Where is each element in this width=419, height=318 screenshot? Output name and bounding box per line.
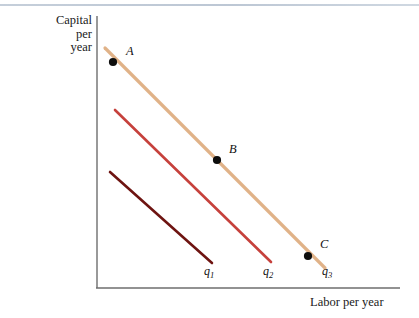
curve-label-q1: q1 xyxy=(204,264,214,280)
isoquant-line-q2 xyxy=(115,110,271,262)
y-axis-label-line-2: per xyxy=(18,28,92,42)
data-point-b xyxy=(213,156,221,164)
curve-label-q2-sub: 2 xyxy=(269,270,273,280)
y-axis-label-line-3: year xyxy=(18,41,92,55)
curve-label-q3: q3 xyxy=(322,264,332,280)
y-axis-label-line-1: Capital xyxy=(18,14,92,28)
x-axis-label: Labor per year xyxy=(310,296,384,310)
curve-label-q3-sub: 3 xyxy=(328,270,332,280)
point-label-a: A xyxy=(126,44,134,59)
point-label-b: B xyxy=(229,142,237,157)
figure-canvas: Capital per year Labor per year A B C q1… xyxy=(0,0,419,318)
data-point-a xyxy=(109,58,117,66)
isoquant-line-q1 xyxy=(110,172,212,263)
curve-label-q2: q2 xyxy=(263,264,273,280)
data-point-c xyxy=(304,252,312,260)
curve-label-q1-sub: 1 xyxy=(210,270,214,280)
point-label-c: C xyxy=(320,237,328,252)
y-axis-label: Capital per year xyxy=(18,14,92,55)
